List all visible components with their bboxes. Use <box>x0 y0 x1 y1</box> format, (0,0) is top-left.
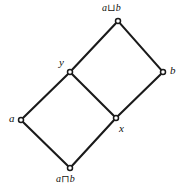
lattice-edge-b-x <box>118 74 161 116</box>
lattice-node-y[interactable] <box>68 70 73 75</box>
lattice-edge-x-y <box>72 74 114 116</box>
lattice-node-label-y: y <box>59 57 64 68</box>
lattice-node-label-b: b <box>170 65 176 76</box>
lattice-graph <box>0 0 184 194</box>
lattice-node-x[interactable] <box>114 116 119 121</box>
lattice-node-label-a: a <box>9 113 15 124</box>
lattice-edge-y-join <box>72 23 116 69</box>
edge-layer <box>23 23 161 166</box>
lattice-node-a[interactable] <box>19 118 24 123</box>
lattice-node-label-meet: a⊓b <box>56 174 75 184</box>
lattice-edge-a-y <box>23 74 68 118</box>
lattice-node-label-x: x <box>119 123 124 134</box>
lattice-node-label-join: a⊔b <box>102 3 121 13</box>
lattice-edge-meet-x <box>72 120 114 165</box>
lattice-diagram: a⊔bbyxaa⊓b <box>0 0 184 194</box>
lattice-node-b[interactable] <box>161 70 166 75</box>
lattice-edge-meet-a <box>23 122 68 166</box>
lattice-node-join[interactable] <box>116 19 121 24</box>
lattice-edge-join-b <box>120 23 161 69</box>
lattice-node-meet[interactable] <box>68 166 73 171</box>
